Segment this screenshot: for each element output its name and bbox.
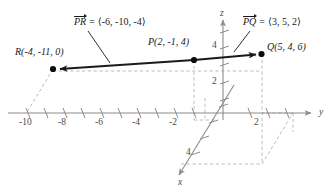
point-Q-dot (258, 51, 264, 57)
y-tick-label-2: 2 (254, 118, 259, 128)
point-P-dot (191, 57, 197, 63)
point-P-label: P(2, -1, 4) (148, 37, 189, 47)
y-tick-label-neg4: -4 (132, 118, 140, 128)
y-axis-label: y (319, 108, 323, 118)
z-tick-label-2: 2 (212, 77, 217, 87)
point-R-label: R(-4, -11, 0) (15, 47, 64, 57)
vector-PR-components: ⟨-6, -10, -4⟩ (98, 16, 146, 27)
point-Q-label: Q(5, 4, 6) (267, 42, 306, 52)
vector-PQ-segment (194, 55, 256, 61)
vector-PR-name: PR (74, 16, 86, 27)
y-tick-label-neg8: -8 (58, 118, 66, 128)
x-axis-line (179, 85, 234, 175)
z-axis-ticks (220, 30, 229, 101)
y-tick-label-neg6: -6 (95, 118, 103, 128)
leader-PR (88, 31, 110, 63)
y-axis (8, 108, 311, 118)
z-axis-label: z (220, 9, 224, 19)
z-tick-label-4: 4 (212, 41, 217, 51)
dash-R-to-yaxis (27, 69, 54, 113)
diagram-canvas (0, 0, 334, 193)
vector-PR-segment (60, 60, 194, 69)
vector-PR-equals: = (89, 16, 95, 27)
vector-PQ-name: PQ (243, 16, 256, 27)
leader-PQ (234, 31, 250, 52)
vector-PQ-equals: = (259, 16, 265, 27)
x-axis (179, 85, 234, 175)
y-tick-label-neg2: -2 (169, 118, 177, 128)
x-tick-label-4: 4 (186, 148, 191, 158)
point-R-dot (50, 66, 56, 72)
x-axis-label: x (178, 178, 182, 188)
vector-PR-label: PR=⟨-6, -10, -4⟩ (74, 16, 146, 27)
y-tick-label-neg10: -10 (19, 118, 32, 128)
dash-floor-right-up (262, 113, 293, 164)
projection-dashed-lines (27, 54, 294, 164)
vector-PQ-components: ⟨3, 5, 2⟩ (268, 16, 301, 27)
vector-segments (60, 55, 256, 70)
vector-diagram-figure: PR=⟨-6, -10, -4⟩ PQ=⟨3, 5, 2⟩ R(-4, -11,… (0, 0, 334, 193)
vector-PQ-label: PQ=⟨3, 5, 2⟩ (243, 16, 301, 27)
